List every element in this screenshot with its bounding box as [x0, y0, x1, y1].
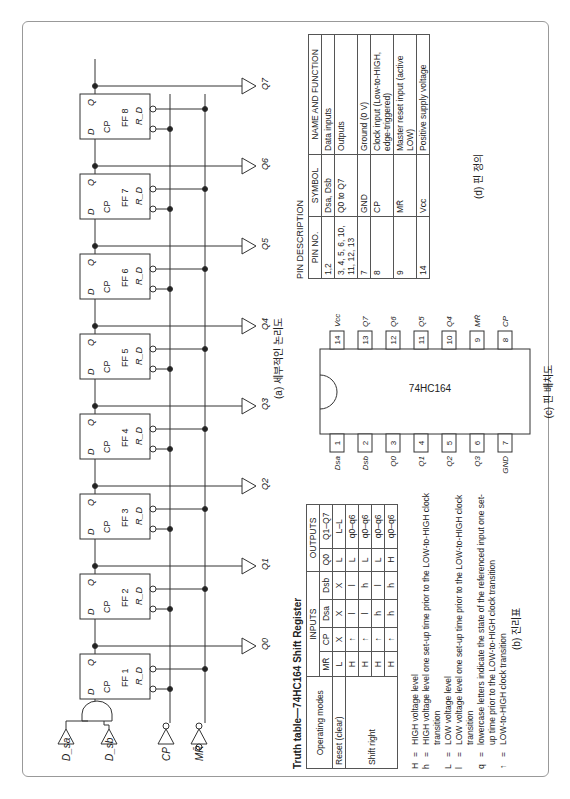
output-buffer-icon	[242, 398, 256, 414]
junction-dot	[203, 427, 208, 432]
cell-pin: 1,2	[322, 217, 335, 279]
col-name-function: NAME AND FUNCTION	[309, 35, 322, 155]
cell-mr: L	[333, 651, 346, 677]
legend-description: LOW voltage level	[443, 489, 454, 745]
ff-pin-cp: CP	[102, 280, 112, 293]
junction-dot	[93, 404, 98, 409]
junction-dot	[168, 367, 173, 372]
cell-cp: ↑	[346, 627, 359, 651]
ff-pin-d: D	[86, 448, 96, 455]
cell-function: Ground (0 V)	[358, 35, 371, 155]
ff-pin-rd: R_D	[134, 666, 144, 685]
truth-table-title: Truth table—74HC164 Shift Register	[292, 598, 303, 769]
input-label-dsa: D_sa	[61, 737, 72, 761]
pin-description-title: PIN DESCRIPTION	[295, 200, 305, 279]
table-row: 14VccPositive supply voltage	[417, 35, 430, 279]
inverter-icon	[191, 729, 207, 744]
junction-dot	[168, 527, 173, 532]
cell-q1q7: q0–q6	[359, 505, 372, 549]
cell-function: Master reset input (active LOW)	[394, 35, 417, 155]
cell-function: Outputs	[335, 35, 358, 155]
col-dsb: Dsb	[320, 571, 333, 599]
cell-pin: 14	[417, 217, 430, 279]
cell-mode: Shift right	[346, 677, 398, 769]
ff-name: FF 4	[120, 428, 130, 447]
cell-symbol: GND	[358, 155, 371, 217]
input-label-dsb: D_sb	[104, 737, 115, 761]
junction-dot	[93, 564, 98, 569]
ff-name: FF 3	[120, 508, 130, 527]
cell-function: Data inputs	[322, 35, 335, 155]
col-inputs: INPUTS	[307, 571, 320, 677]
inversion-bubble-icon	[196, 723, 202, 729]
inversion-bubble-icon	[163, 723, 169, 729]
pin-name: MR̄	[473, 314, 482, 327]
cell-dsb: h	[385, 571, 398, 599]
table-row: Reset (clear) L X X X L L–L	[333, 505, 346, 769]
pin-name: Q1	[417, 456, 426, 467]
legend-item: H=HIGH voltage level	[410, 489, 421, 769]
cell-pin: 7	[358, 217, 371, 279]
cell-q0: L	[346, 548, 359, 571]
legend-description: LOW voltage level one set-up time prior …	[454, 489, 476, 745]
junction-dot	[93, 84, 98, 89]
col-cp: CP	[320, 627, 333, 651]
output-label-q2: Q2	[260, 478, 270, 490]
legend-symbol: h	[421, 757, 443, 769]
truth-table-legend: H=HIGH voltage level h=HIGH voltage leve…	[410, 489, 522, 769]
ff-name: FF 1	[120, 668, 130, 687]
cell-q1q7: L–L	[333, 505, 346, 549]
buffer-icon	[158, 729, 174, 744]
pin-number: 12	[389, 335, 398, 344]
pin-number: 14	[333, 335, 342, 344]
cell-cp: ↑	[359, 627, 372, 651]
pin-name: Q3	[473, 455, 482, 466]
junction-dot	[203, 267, 208, 272]
pin-number: 3	[389, 440, 398, 445]
legend-symbol: H	[410, 757, 421, 769]
reset-bubble-icon	[150, 346, 156, 352]
output-label-q3: Q3	[260, 398, 270, 410]
ff-pin-d: D	[86, 368, 96, 375]
junction-dot	[203, 507, 208, 512]
ff-pin-q: Q	[86, 499, 96, 506]
legend-symbol: ↑	[498, 757, 509, 769]
junction-dot	[203, 347, 208, 352]
ff-name: FF 8	[120, 108, 130, 127]
cell-q0: L	[333, 548, 346, 571]
legend-item: q=lowercase letters indicate the state o…	[476, 489, 498, 769]
cell-dsb: h	[359, 571, 372, 599]
legend-description: HIGH voltage level one set-up time prior…	[421, 489, 443, 745]
ff-pin-q: Q	[86, 259, 96, 266]
pin-diagram-caption: (c) 핀 배치도	[543, 365, 554, 418]
output-buffer-icon	[242, 238, 256, 254]
ff-pin-q: Q	[86, 339, 96, 346]
chip-notch	[320, 375, 337, 409]
clock-bubble-icon	[150, 366, 156, 372]
pin-name: Q0	[389, 455, 398, 466]
pin-name: Dsb	[361, 455, 370, 470]
ff-pin-d: D	[86, 688, 96, 695]
reset-bubble-icon	[150, 426, 156, 432]
junction-dot	[93, 244, 98, 249]
output-label-q6: Q6	[260, 158, 270, 170]
cell-symbol: Q0 to Q7	[335, 155, 358, 217]
junction-dot	[203, 667, 208, 672]
cell-mr: H	[346, 651, 359, 677]
ff-pin-d: D	[86, 608, 96, 615]
input-label-cp: CP	[161, 747, 172, 761]
ff-pin-rd: R_D	[134, 186, 144, 205]
junction-dot	[168, 127, 173, 132]
cell-function: Clock input (Low-to-HIGH, edge-triggered…	[371, 35, 394, 155]
input-label-mr: MR̄	[193, 745, 205, 761]
col-mr: MR̄	[320, 651, 333, 677]
table-row: 8CPClock input (Low-to-HIGH, edge-trigge…	[371, 35, 394, 279]
cell-dsb: l	[346, 571, 359, 599]
ff-pin-rd: R_D	[134, 426, 144, 445]
and-gate-icon	[82, 701, 112, 721]
ff-pin-rd: R_D	[134, 106, 144, 125]
pin-name: GND	[501, 456, 510, 474]
wire	[104, 721, 109, 729]
pin-number: 11	[417, 335, 426, 344]
clock-bubble-icon	[150, 206, 156, 212]
